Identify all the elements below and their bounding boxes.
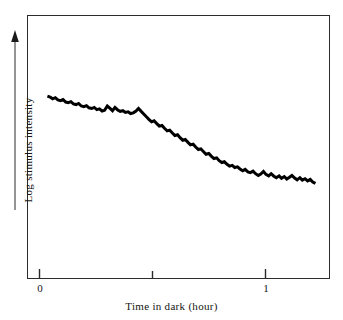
y-axis-title: Log stimulus intensity — [22, 70, 34, 230]
x-axis-title: Time in dark (hour) — [0, 300, 343, 312]
up-arrow-icon — [11, 30, 19, 210]
plot-frame — [28, 16, 330, 279]
chart-figure: Time in dark (hour) Log stimulus intensi… — [0, 0, 343, 320]
dark-adaptation-curve — [47, 96, 315, 183]
x-tick-label-0: 0 — [30, 282, 50, 294]
x-axis-ticks — [40, 269, 266, 278]
chart-canvas — [0, 0, 343, 320]
x-tick-label-1: 1 — [256, 282, 276, 294]
